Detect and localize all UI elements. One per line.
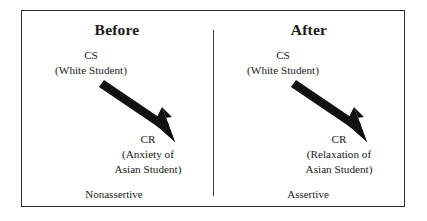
panel-before-response-block: CR (Anxiety of Asian Student)	[87, 132, 209, 177]
panel-before: Before CS (White Student) CR (Anxiety of…	[21, 10, 213, 207]
panel-after-outcome-label: Assertive	[243, 188, 373, 200]
panel-before-cr-label: CR	[87, 132, 209, 147]
panel-before-cr-detail-line1: (Anxiety of	[87, 147, 209, 162]
panel-after-cs-label: CS	[227, 48, 339, 63]
panel-before-outcome-label: Nonassertive	[49, 188, 179, 200]
panel-before-cs-label: CS	[35, 48, 147, 63]
diagram-canvas: Before CS (White Student) CR (Anxiety of…	[0, 0, 427, 221]
panel-after-cr-label: CR	[275, 132, 403, 147]
panel-before-cr-detail-line2: Asian Student)	[87, 162, 209, 177]
panel-after: After CS (White Student) CR (Relaxation …	[213, 10, 405, 207]
panel-after-cr-detail-line1: (Relaxation of	[275, 147, 403, 162]
panel-after-title: After	[213, 21, 405, 39]
panel-before-title: Before	[21, 21, 213, 39]
panel-after-response-block: CR (Relaxation of Asian Student)	[275, 132, 403, 177]
panel-after-cr-detail-line2: Asian Student)	[275, 162, 403, 177]
